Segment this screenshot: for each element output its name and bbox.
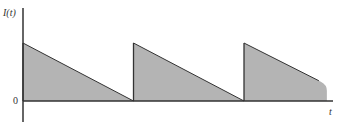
tooth-area-2 — [244, 43, 327, 101]
y-axis-label: I(t) — [2, 7, 16, 19]
x-axis-label: t — [329, 106, 332, 117]
teeth-layer — [23, 43, 327, 101]
y-tick-label-0: 0 — [13, 95, 18, 106]
sawtooth-chart: I(t) 0 t — [0, 0, 342, 129]
